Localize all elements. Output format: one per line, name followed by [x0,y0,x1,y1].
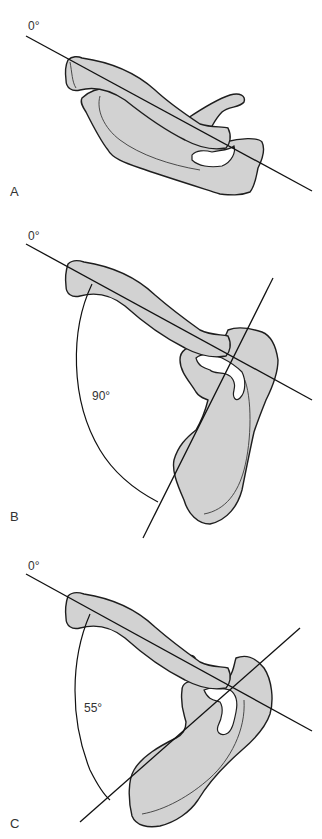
panel-label-a: A [10,184,19,199]
reference-axis-b [26,244,312,400]
zero-degree-label-b: 0° [28,229,40,243]
panel-b: 0° 90° B [10,229,312,538]
angle-label-c: 55° [84,701,102,715]
angle-label-b: 90° [92,389,110,403]
scapula-b [173,328,278,524]
zero-degree-label-c: 0° [28,559,40,573]
panel-label-b: B [10,509,19,524]
panel-label-c: C [10,816,19,831]
panel-c: 0° 55° C [10,559,312,831]
reference-axis-c [26,574,312,731]
panel-a: 0° A [10,19,312,199]
scapuloclavicular-angle-diagram: 0° A 0° 90° B 0° 55° C [0,0,322,839]
zero-degree-label-a: 0° [28,19,40,33]
